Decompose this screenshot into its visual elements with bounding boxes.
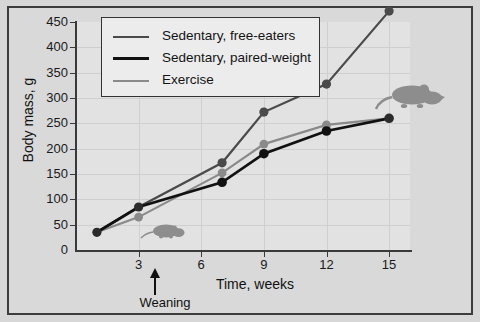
y-tick-100 xyxy=(70,199,76,200)
legend-item-sedentary-free-eaters: Sedentary, free-eaters xyxy=(110,26,315,48)
vgridline-15 xyxy=(389,22,390,250)
x-tick-label-12: 12 xyxy=(312,258,342,271)
gridline-300 xyxy=(76,98,410,99)
x-axis-line xyxy=(75,250,412,252)
y-axis-line xyxy=(75,21,77,252)
x-tick-label-9: 9 xyxy=(249,258,279,271)
legend-swatch-line xyxy=(113,36,149,38)
y-tick-250 xyxy=(70,123,76,124)
rat-pup-icon xyxy=(140,218,188,240)
legend-label: Exercise xyxy=(162,72,214,87)
up-arrow-icon xyxy=(148,268,162,296)
y-axis-title: Body mass, g xyxy=(20,45,36,195)
weaning-label: Weaning xyxy=(120,295,210,310)
legend-swatch-line xyxy=(113,57,149,60)
legend-item-sedentary-paired-weight: Sedentary, paired-weight xyxy=(110,48,315,70)
gridline-50 xyxy=(76,225,410,226)
rat-adult-icon xyxy=(374,80,446,114)
gridline-200 xyxy=(76,149,410,150)
legend-label: Sedentary, paired-weight xyxy=(162,50,311,65)
figure-canvas: 450 400 350 300 250 200 150 100 50 0 3 6… xyxy=(0,0,480,322)
y-tick-150 xyxy=(70,174,76,175)
gridline-150 xyxy=(76,174,410,175)
gridline-250 xyxy=(76,123,410,124)
legend-swatch-line xyxy=(113,80,149,82)
y-tick-450 xyxy=(70,22,76,23)
vgridline-12 xyxy=(327,22,328,250)
y-tick-350 xyxy=(70,73,76,74)
y-tick-300 xyxy=(70,98,76,99)
y-tick-label-50: 50 xyxy=(28,218,68,231)
weaning-annotation: Weaning xyxy=(120,262,210,314)
y-tick-50 xyxy=(70,225,76,226)
legend-item-exercise: Exercise xyxy=(110,70,315,92)
y-tick-400 xyxy=(70,47,76,48)
y-tick-label-450: 450 xyxy=(28,15,68,28)
y-tick-label-0: 0 xyxy=(28,243,68,256)
legend: Sedentary, free-eaters Sedentary, paired… xyxy=(101,17,320,97)
x-tick-label-15: 15 xyxy=(374,258,404,271)
y-tick-200 xyxy=(70,149,76,150)
gridline-100 xyxy=(76,199,410,200)
legend-label: Sedentary, free-eaters xyxy=(162,28,295,43)
